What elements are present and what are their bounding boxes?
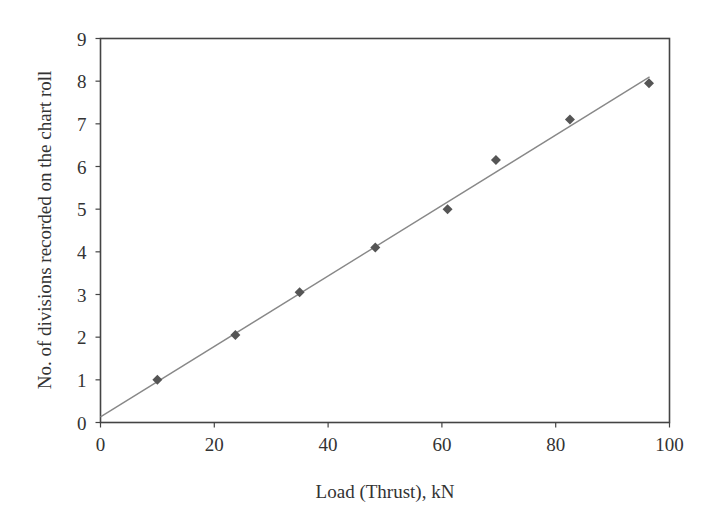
x-tick-label: 60 [432,434,451,455]
y-tick-label: 7 [77,114,87,135]
y-tick-label: 5 [77,199,87,220]
x-tick-label: 0 [96,434,106,455]
data-point-diamond [491,155,501,165]
y-tick-label: 9 [77,29,87,50]
y-tick-label: 8 [77,71,87,92]
data-point-diamond [565,115,575,125]
y-tick-label: 0 [77,413,87,434]
y-tick-label: 1 [77,370,87,391]
x-tick-label: 40 [319,434,338,455]
data-point-diamond [443,204,453,214]
y-tick-label: 2 [77,327,87,348]
chart: 0123456789 020406080100 Load (Thrust), k… [0,0,717,511]
x-axis-ticks: 020406080100 [96,423,684,455]
y-axis-ticks: 0123456789 [77,29,101,434]
plot-area: 0123456789 020406080100 [77,29,684,455]
x-axis-title: Load (Thrust), kN [316,481,455,503]
x-tick-label: 100 [655,434,684,455]
y-tick-label: 6 [77,157,87,178]
x-tick-label: 80 [546,434,565,455]
y-axis-title: No. of divisions recorded on the chart r… [34,71,55,390]
x-tick-label: 20 [205,434,224,455]
y-tick-label: 3 [77,285,87,306]
y-tick-label: 4 [77,242,87,263]
